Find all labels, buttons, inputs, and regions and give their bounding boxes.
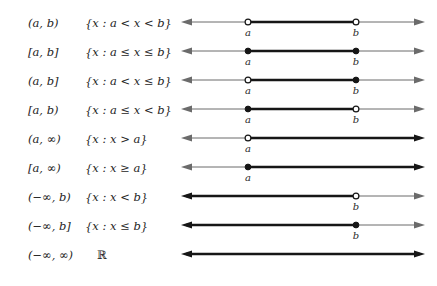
endpoint-label: a: [241, 27, 255, 38]
interval-notation-cell: (−∞, ∞): [28, 246, 90, 264]
set-builder-cell: {x : a ≤ x ≤ b}: [85, 43, 180, 61]
interval-notation-table: (a, b){x : a < x < b}ab[a, b]{x : a ≤ x …: [0, 0, 437, 286]
number-line-diagram: [180, 242, 430, 270]
interval-notation-cell: (−∞, b]: [28, 217, 90, 235]
endpoint-label: b: [349, 201, 363, 212]
number-line-diagram: a: [180, 155, 430, 183]
number-line-diagram: a: [180, 126, 430, 154]
endpoint-label: b: [349, 230, 363, 241]
interval-notation-cell: [a, b]: [28, 43, 90, 61]
set-builder-cell: {x : x ≥ a}: [85, 159, 180, 177]
set-builder-cell: {x : a < x < b}: [85, 14, 180, 32]
endpoint-label: b: [349, 114, 363, 125]
endpoint-label: b: [349, 56, 363, 67]
interval-notation-cell: [a, ∞): [28, 159, 90, 177]
number-line-diagram: b: [180, 213, 430, 241]
number-line-diagram: ab: [180, 10, 430, 38]
endpoint-label: b: [349, 85, 363, 96]
set-builder-cell: {x : x < b}: [85, 188, 180, 206]
set-builder-cell: ℝ: [97, 246, 192, 264]
number-line-diagram: b: [180, 184, 430, 212]
endpoint-label: b: [349, 27, 363, 38]
number-line-diagram: ab: [180, 97, 430, 125]
set-builder-cell: {x : x ≤ b}: [85, 217, 180, 235]
interval-notation-cell: (−∞, b): [28, 188, 90, 206]
set-builder-cell: {x : a ≤ x < b}: [85, 101, 180, 119]
endpoint-label: a: [241, 172, 255, 183]
number-line-diagram: ab: [180, 39, 430, 67]
endpoint-label: a: [241, 114, 255, 125]
endpoint-label: a: [241, 143, 255, 154]
set-builder-cell: {x : a < x ≤ b}: [85, 72, 180, 90]
number-line-diagram: ab: [180, 68, 430, 96]
set-builder-cell: {x : x > a}: [85, 130, 180, 148]
interval-notation-cell: (a, b]: [28, 72, 90, 90]
endpoint-label: a: [241, 85, 255, 96]
table-row: (−∞, ∞)ℝ: [0, 246, 437, 275]
interval-notation-cell: (a, b): [28, 14, 90, 32]
interval-notation-cell: (a, ∞): [28, 130, 90, 148]
endpoint-label: a: [241, 56, 255, 67]
interval-notation-cell: [a, b): [28, 101, 90, 119]
